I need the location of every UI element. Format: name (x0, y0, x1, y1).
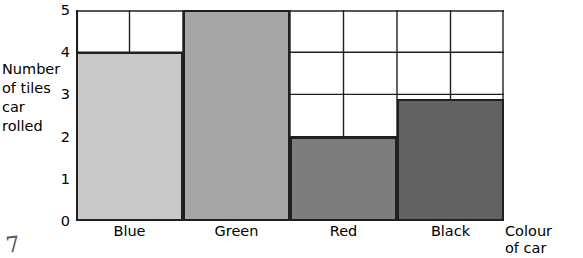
x-tick-label-black: Black (397, 223, 504, 239)
bars-layer (76, 10, 504, 221)
y-tick-label: 3 (56, 87, 70, 101)
bar-blue (76, 52, 183, 221)
y-tick-label: 0 (56, 214, 70, 228)
y-tick-label: 1 (56, 172, 70, 186)
plot-area (76, 10, 504, 221)
y-tick-label: 5 (56, 3, 70, 17)
x-axis-title: Colour of car (505, 223, 583, 257)
x-tick-label-blue: Blue (76, 223, 183, 239)
y-axis-ticks: 012345 (52, 10, 70, 221)
x-axis-title-line-2: of car (505, 240, 583, 257)
x-axis-category-labels: BlueGreenRedBlack (76, 223, 504, 245)
x-axis-title-line-1: Colour (505, 223, 583, 240)
x-tick-label-green: Green (183, 223, 290, 239)
bar-black (397, 99, 504, 221)
x-tick-label-red: Red (290, 223, 397, 239)
y-tick-label: 4 (56, 45, 70, 59)
bar-green (183, 10, 290, 221)
bar-red (290, 137, 397, 221)
pencil-mark: 7 (4, 231, 21, 258)
y-tick-label: 2 (56, 130, 70, 144)
bar-chart-figure: Number of tiles car rolled 012345 BlueGr… (0, 0, 583, 258)
